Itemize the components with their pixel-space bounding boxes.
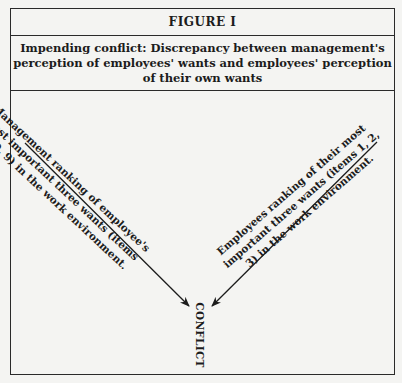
- conflict-label: CONFLICT: [194, 302, 206, 367]
